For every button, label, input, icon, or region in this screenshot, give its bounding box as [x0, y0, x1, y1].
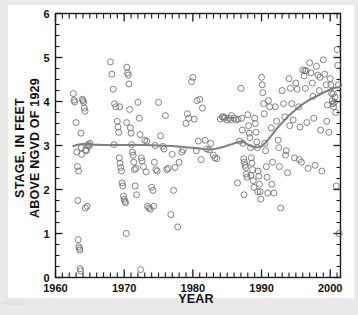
data-point	[158, 133, 164, 139]
data-point	[156, 99, 162, 105]
data-point	[327, 76, 333, 82]
data-point	[313, 63, 319, 69]
x-axis-tick-labels: 19601970198019902000	[43, 282, 342, 294]
y-tick-label: 4	[43, 96, 50, 108]
data-point	[287, 123, 293, 129]
data-point	[324, 118, 330, 124]
data-point	[276, 145, 282, 151]
data-point	[286, 76, 292, 82]
data-point	[75, 237, 81, 243]
data-point	[305, 165, 311, 171]
data-point	[172, 165, 178, 171]
data-point	[318, 127, 324, 133]
data-point	[324, 102, 330, 108]
data-point	[138, 267, 144, 273]
data-point	[114, 118, 120, 124]
data-point	[268, 125, 274, 131]
data-point	[208, 140, 214, 146]
data-point	[70, 91, 76, 97]
data-point	[164, 167, 170, 173]
x-axis-title: YEAR	[178, 292, 214, 306]
data-point	[250, 167, 256, 173]
data-point	[144, 138, 150, 144]
y-tick-label: 6	[43, 8, 49, 20]
y-tick-label: 3	[43, 140, 49, 152]
y-tick-label: 2	[43, 184, 49, 196]
data-point	[137, 132, 143, 138]
data-point	[74, 164, 80, 170]
data-point	[302, 85, 308, 91]
data-point	[76, 168, 82, 174]
data-point	[279, 88, 285, 94]
y-axis-tick-labels: 0123456	[43, 8, 50, 284]
data-point	[320, 57, 326, 63]
data-point	[239, 115, 245, 121]
data-point	[303, 68, 309, 74]
data-point	[82, 205, 88, 211]
data-point	[264, 174, 270, 180]
x-tick-label: 1960	[43, 282, 67, 294]
data-point	[259, 74, 265, 80]
y-tick-label: 5	[43, 52, 49, 64]
x-tick-label: 1980	[181, 282, 205, 294]
data-point	[191, 116, 197, 122]
x-tick-label: 1990	[249, 282, 273, 294]
x-tick-label: 2000	[318, 282, 342, 294]
data-point	[289, 101, 295, 107]
data-point	[239, 127, 245, 133]
data-point	[124, 120, 130, 126]
data-point	[134, 192, 140, 198]
data-point	[283, 152, 289, 158]
data-point	[84, 203, 90, 209]
data-point	[168, 212, 174, 218]
data-point	[247, 135, 253, 141]
data-point	[118, 168, 124, 174]
data-point	[162, 113, 168, 119]
data-point	[274, 118, 280, 124]
data-point	[107, 59, 113, 65]
data-point	[258, 196, 264, 202]
data-point	[75, 198, 81, 204]
data-point	[270, 159, 276, 165]
data-point	[151, 159, 157, 165]
data-point	[131, 159, 137, 165]
data-point	[117, 104, 123, 110]
data-point	[312, 162, 318, 168]
data-point	[78, 130, 84, 136]
data-point	[271, 190, 277, 196]
y-tick-label: 1	[43, 228, 49, 240]
data-point	[287, 85, 293, 91]
data-point	[198, 157, 204, 163]
data-point	[123, 231, 129, 237]
data-point	[265, 190, 271, 196]
corner-artifact-text: m6 1/1/1	[2, 300, 46, 308]
data-point	[234, 180, 240, 186]
data-point	[333, 183, 339, 189]
data-point	[245, 123, 251, 129]
data-point	[176, 159, 182, 165]
data-point	[199, 105, 205, 111]
data-point	[269, 181, 275, 187]
data-point	[261, 111, 267, 117]
data-point	[307, 60, 313, 66]
data-point	[109, 71, 115, 77]
data-point	[334, 47, 340, 53]
data-point	[153, 167, 159, 173]
data-point	[132, 183, 138, 189]
data-point	[133, 165, 139, 171]
data-point	[263, 164, 269, 170]
data-point	[311, 115, 317, 121]
figure-container: STAGE, IN FEET ABOVE NGVD OF 1929 YEAR 0…	[0, 0, 358, 315]
y-axis-title-line1: STAGE, IN FEET	[13, 98, 27, 198]
data-point	[238, 85, 244, 91]
data-point	[245, 112, 251, 118]
scatter-points-group	[70, 47, 342, 274]
data-point	[202, 137, 208, 143]
data-point	[278, 205, 284, 211]
data-point	[290, 117, 296, 123]
data-point	[297, 124, 303, 130]
data-point	[124, 64, 130, 70]
data-point	[293, 80, 299, 86]
stage-vs-year-scatter-chart: STAGE, IN FEET ABOVE NGVD OF 1929 YEAR 0…	[0, 0, 358, 315]
data-point	[126, 81, 132, 87]
